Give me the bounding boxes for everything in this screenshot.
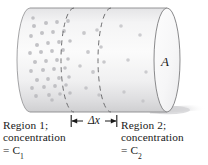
cylinder-illustration: A <box>0 0 208 120</box>
thickness-annotation: Δx <box>70 113 118 133</box>
deltax-label: Δx <box>70 114 118 126</box>
region-2-concentration-word: concentration <box>121 131 184 143</box>
region-1-caption: Region 1; concentration = C1 <box>3 119 66 156</box>
region-2-value-prefix: = C <box>121 144 138 156</box>
region-1-value-prefix: = C <box>3 144 20 156</box>
region-1-title: Region 1; <box>3 119 66 131</box>
region-1-value-subscript: 1 <box>20 152 24 161</box>
region-2-value-subscript: 2 <box>138 152 142 161</box>
area-label: A <box>160 54 169 69</box>
diffusion-cylinder-figure: A Δx Region 1; concentration = C1 Region… <box>0 0 208 165</box>
region-1-concentration-word: concentration <box>3 131 66 143</box>
region-1-value: = C1 <box>3 144 66 156</box>
region-2-title: Region 2; <box>121 119 184 131</box>
region-2-caption: Region 2; concentration = C2 <box>121 119 184 156</box>
region-2-value: = C2 <box>121 144 184 156</box>
